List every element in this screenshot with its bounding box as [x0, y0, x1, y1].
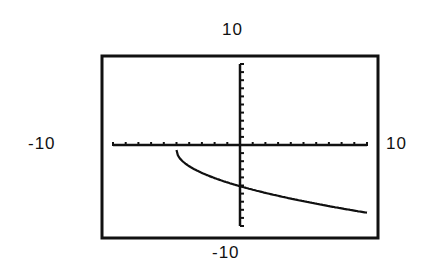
axes	[113, 64, 367, 226]
function-curve	[177, 150, 368, 213]
graph-screen	[0, 0, 439, 280]
